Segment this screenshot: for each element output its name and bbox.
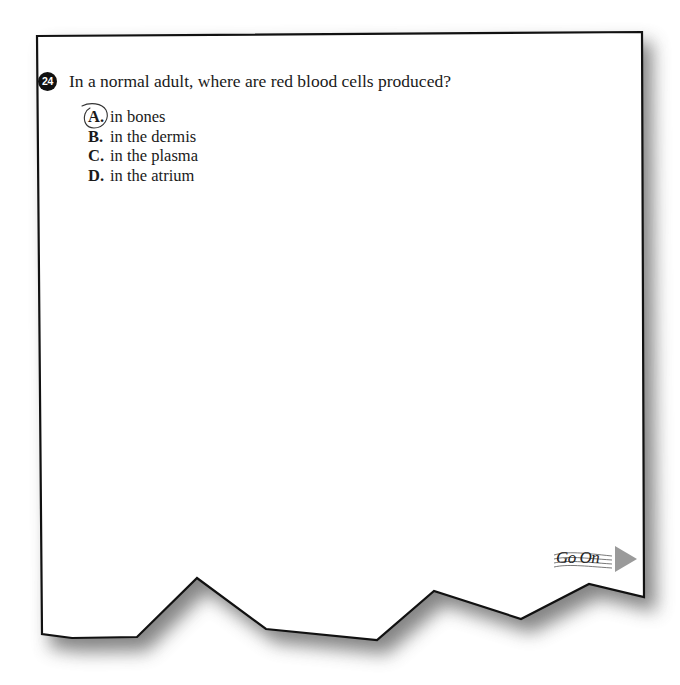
choice-letter: B. <box>88 127 108 147</box>
arrow-right-triangle-icon <box>615 546 637 572</box>
answer-choices: A.in bones B.in the dermis C.in the plas… <box>88 107 198 185</box>
choice-text: in bones <box>110 107 165 126</box>
go-on-button[interactable]: Go On <box>553 543 639 575</box>
choice-letter: A. <box>88 107 108 127</box>
question-number-badge: 24 <box>38 72 57 91</box>
choice-a[interactable]: A.in bones <box>88 107 198 127</box>
choice-c[interactable]: C.in the plasma <box>88 146 198 166</box>
choice-b[interactable]: B.in the dermis <box>88 127 198 147</box>
torn-page-frame <box>0 0 680 685</box>
choice-text: in the dermis <box>110 127 196 146</box>
choice-d[interactable]: D.in the atrium <box>88 166 198 186</box>
go-on-label: Go On <box>556 548 599 568</box>
question-stem: In a normal adult, where are red blood c… <box>69 70 451 92</box>
choice-text: in the atrium <box>110 166 194 185</box>
choice-text: in the plasma <box>110 146 198 165</box>
choice-letter: C. <box>88 146 108 166</box>
choice-letter: D. <box>88 166 108 186</box>
